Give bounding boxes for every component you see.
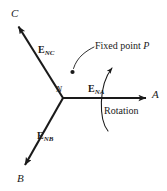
phasor-ena-symbol: E	[88, 83, 95, 94]
phasor-label-ena: ENA	[88, 84, 104, 96]
phasor-enc-symbol: E	[38, 44, 45, 55]
neutral-node-label: N	[56, 85, 62, 94]
phasor-enb-symbol: E	[37, 130, 44, 141]
terminal-label-a: A	[152, 89, 159, 100]
fixed-point-annotation: Fixed point P	[95, 41, 149, 51]
rotation-arc	[101, 68, 112, 131]
phasor-diagram-figure: C B A N ENC ENA ENB Fixed point P Rotati…	[0, 0, 167, 191]
fixed-point-marker	[70, 70, 74, 74]
phasor-label-enc: ENC	[38, 45, 54, 57]
phasor-diagram-canvas	[0, 0, 167, 191]
phasor-label-enb: ENB	[37, 131, 53, 143]
fixed-point-leader-line	[74, 47, 95, 69]
terminal-label-c: C	[11, 8, 18, 19]
phasor-enb-subscript: NB	[44, 135, 54, 143]
fixed-point-text: Fixed point	[95, 40, 141, 51]
phasor-enc-subscript: NC	[45, 49, 55, 57]
terminal-label-b: B	[17, 173, 24, 184]
phasor-ena-subscript: NA	[95, 88, 105, 96]
fixed-point-symbol: P	[143, 40, 149, 51]
rotation-annotation: Rotation	[104, 106, 138, 116]
